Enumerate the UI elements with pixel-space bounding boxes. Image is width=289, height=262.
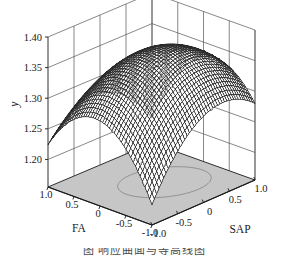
x-tick-label: 0 <box>95 208 100 219</box>
y-tick-label: 0 <box>207 206 212 217</box>
y-tick-label: 0.5 <box>229 194 242 205</box>
z-axis-label: y <box>8 101 21 108</box>
surface-plot-3d: 1.401.351.301.251.20y1.00.50-0.5-1.0-1.0… <box>0 0 289 262</box>
x-tick-label: -0.5 <box>116 218 133 229</box>
figure-container: 1.401.351.301.251.20y1.00.50-0.5-1.0-1.0… <box>0 0 289 262</box>
x-axis-label: FA <box>72 222 87 234</box>
y-tick-label: 1.0 <box>254 183 267 194</box>
y-axis-label: SAP <box>229 223 250 235</box>
z-tick-label: 1.25 <box>24 123 42 134</box>
x-tick-label: 1.0 <box>39 189 52 200</box>
y-tick-label: -0.5 <box>175 217 192 228</box>
x-tick-label: 0.5 <box>65 199 78 210</box>
figure-caption: 图 响应曲面与等高线图 <box>0 248 289 262</box>
z-tick-label: 1.20 <box>24 154 42 165</box>
z-tick-label: 1.35 <box>24 62 42 73</box>
z-tick-label: 1.40 <box>24 32 42 43</box>
z-tick-label: 1.30 <box>24 93 42 104</box>
y-tick-label: -1.0 <box>150 228 167 239</box>
